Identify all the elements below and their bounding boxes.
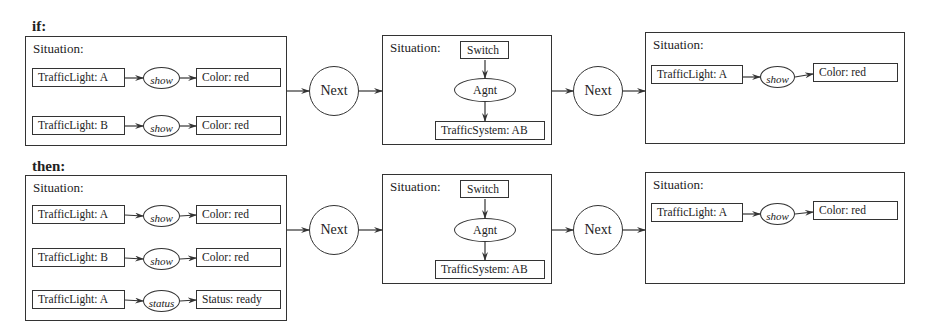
connector-arrows: [0, 0, 927, 334]
